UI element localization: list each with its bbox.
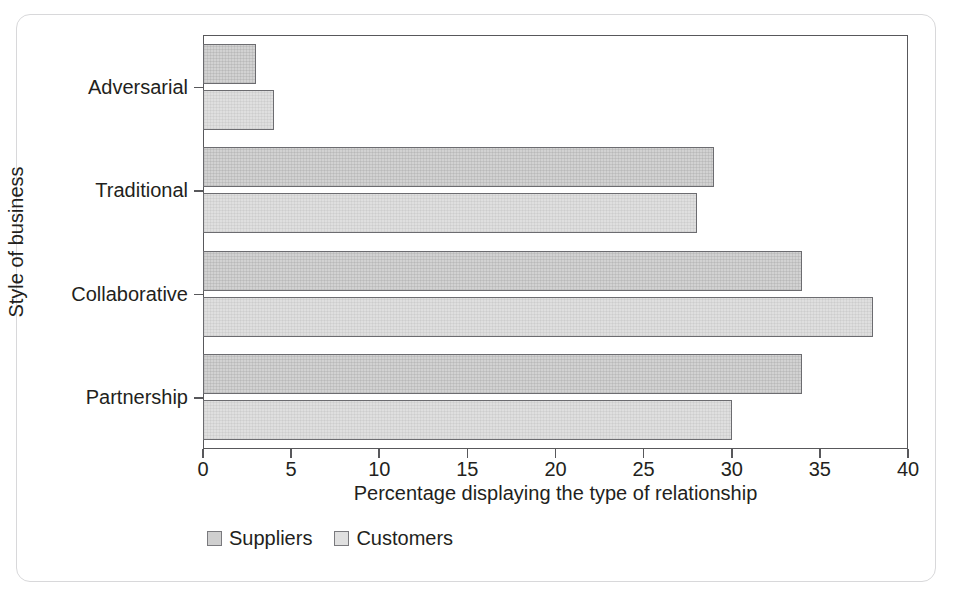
x-tick-35	[819, 449, 821, 458]
x-tick-10	[378, 449, 380, 458]
y-tick-label-collaborative: Collaborative	[71, 282, 188, 305]
bar-chart: 0510152025303540 AdversarialTraditionalC…	[0, 0, 959, 597]
x-tick-label-40: 40	[897, 458, 919, 481]
x-tick-20	[555, 449, 557, 458]
y-tick-traditional	[194, 190, 203, 192]
x-tick-label-20: 20	[544, 458, 566, 481]
x-tick-15	[467, 449, 469, 458]
x-tick-label-10: 10	[368, 458, 390, 481]
x-tick-label-35: 35	[809, 458, 831, 481]
legend-label-customers: Customers	[356, 527, 453, 550]
y-tick-label-adversarial: Adversarial	[88, 75, 188, 98]
y-tick-label-traditional: Traditional	[95, 179, 188, 202]
bar-traditional-suppliers	[203, 147, 714, 187]
bar-partnership-suppliers	[203, 354, 802, 394]
bar-adversarial-suppliers	[203, 44, 256, 84]
legend-swatch-suppliers-icon	[207, 531, 222, 546]
x-tick-40	[907, 449, 909, 458]
bar-traditional-customers	[203, 193, 697, 233]
x-tick-label-25: 25	[633, 458, 655, 481]
x-tick-label-0: 0	[197, 458, 208, 481]
y-tick-partnership	[194, 397, 203, 399]
x-tick-5	[290, 449, 292, 458]
x-tick-25	[643, 449, 645, 458]
x-tick-label-5: 5	[286, 458, 297, 481]
bar-partnership-customers	[203, 400, 732, 440]
bar-collaborative-suppliers	[203, 251, 802, 291]
y-tick-label-partnership: Partnership	[86, 386, 188, 409]
x-tick-label-30: 30	[721, 458, 743, 481]
y-axis-label: Style of business	[5, 166, 28, 317]
x-tick-label-15: 15	[456, 458, 478, 481]
chart-legend: SuppliersCustomers	[203, 527, 908, 550]
y-tick-collaborative	[194, 294, 203, 296]
legend-swatch-customers-icon	[334, 531, 349, 546]
bar-collaborative-customers	[203, 297, 873, 337]
legend-item-suppliers[interactable]: Suppliers	[207, 527, 312, 550]
y-tick-adversarial	[194, 87, 203, 89]
x-tick-0	[202, 449, 204, 458]
legend-label-suppliers: Suppliers	[229, 527, 312, 550]
x-tick-30	[731, 449, 733, 458]
x-axis-label: Percentage displaying the type of relati…	[203, 482, 908, 505]
bar-adversarial-customers	[203, 90, 274, 130]
legend-item-customers[interactable]: Customers	[334, 527, 453, 550]
y-axis-label-text: Style of business	[5, 166, 28, 317]
